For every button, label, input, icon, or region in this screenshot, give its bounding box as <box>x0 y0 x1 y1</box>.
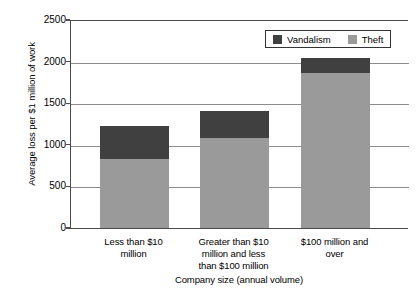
x-tick-label-line: $100 million and <box>274 236 396 248</box>
x-tick-label-line: than $100 million <box>173 260 295 272</box>
y-tick-label: 2500 <box>32 15 66 25</box>
legend-entry-vandalism[interactable]: Vandalism <box>273 34 331 45</box>
legend-label: Vandalism <box>287 34 331 45</box>
chart-figure: Average loss per $1 million of work 0500… <box>0 0 417 302</box>
legend-entry-theft[interactable]: Theft <box>348 34 384 45</box>
y-tick-label: 2000 <box>32 57 66 67</box>
bar-segment-theft[interactable] <box>100 159 169 228</box>
bar-segment-theft[interactable] <box>301 73 370 228</box>
stacked-bar[interactable] <box>100 126 169 228</box>
bar-segment-vandalism[interactable] <box>301 58 370 73</box>
plot-area <box>70 20 408 228</box>
x-tick-label-line: over <box>274 248 396 260</box>
stacked-bar[interactable] <box>301 58 370 228</box>
x-axis-line <box>70 228 408 229</box>
y-tick-label: 1500 <box>32 98 66 108</box>
stacked-bar[interactable] <box>200 111 269 228</box>
x-axis-title: Company size (annual volume) <box>70 274 408 286</box>
y-tick-label: 1000 <box>32 140 66 150</box>
legend-swatch-icon <box>273 35 282 44</box>
legend-swatch-icon <box>348 35 357 44</box>
legend-label: Theft <box>362 34 384 45</box>
x-tick-label: $100 million andover <box>274 236 396 260</box>
bar-segment-vandalism[interactable] <box>200 111 269 138</box>
bar-segment-theft[interactable] <box>200 138 269 228</box>
y-tick-label: 0 <box>32 223 66 233</box>
bar-segment-vandalism[interactable] <box>100 126 169 159</box>
legend: VandalismTheft <box>265 30 391 48</box>
y-axis-tick-labels: 05001000150020002500 <box>30 0 66 302</box>
y-tick-label: 500 <box>32 181 66 191</box>
